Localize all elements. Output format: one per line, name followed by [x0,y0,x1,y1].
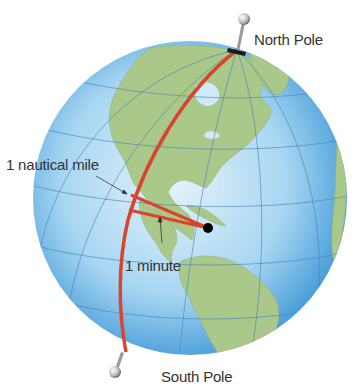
north-pole-label: North Pole [254,32,323,48]
north-pole-pin-icon [227,13,250,56]
globe-diagram [0,0,360,390]
south-pole-pin-icon [109,352,124,378]
south-pole-label: South Pole [161,369,232,385]
one-minute-label: 1 minute [125,258,181,274]
nautical-mile-label: 1 nautical mile [6,157,99,173]
earth-center-point [203,223,213,233]
